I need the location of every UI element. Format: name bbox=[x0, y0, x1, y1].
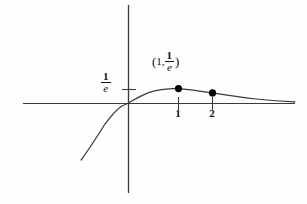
fraction-denominator: e bbox=[101, 83, 111, 94]
data-point-maximum bbox=[175, 85, 182, 92]
fraction-one-over-e-label: 1 e bbox=[165, 50, 175, 73]
fraction-denominator: e bbox=[165, 62, 175, 73]
fraction-one-over-e: 1 e bbox=[101, 71, 111, 94]
x-axis-tick-label-2: 2 bbox=[205, 108, 219, 119]
x-axis-tick-label-1: 1 bbox=[171, 108, 185, 119]
fraction-numerator: 1 bbox=[101, 71, 111, 82]
graph-figure: 1 e (1, 1 e ) 1 2 bbox=[0, 0, 307, 204]
data-point-secondary bbox=[209, 89, 216, 96]
fraction-numerator: 1 bbox=[165, 50, 175, 61]
right-paren: ) bbox=[174, 55, 179, 68]
y-axis-value-label: 1 e bbox=[101, 71, 111, 94]
curve-ln-x-over-x bbox=[81, 89, 295, 160]
point-label-maximum: (1, 1 e ) bbox=[152, 50, 179, 73]
plot-canvas bbox=[0, 0, 307, 204]
